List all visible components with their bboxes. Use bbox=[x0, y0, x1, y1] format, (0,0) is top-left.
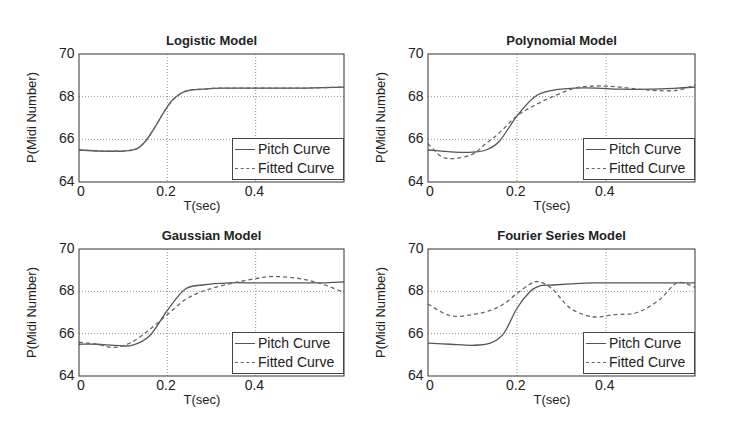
legend: Pitch CurveFitted Curve bbox=[583, 332, 695, 374]
solid-line-icon bbox=[586, 343, 606, 344]
legend-label: Pitch Curve bbox=[609, 334, 681, 353]
legend-label: Fitted Curve bbox=[609, 353, 685, 372]
fitted-curve-line bbox=[428, 281, 695, 316]
legend-item: Fitted Curve bbox=[586, 353, 691, 372]
legend-item: Pitch Curve bbox=[586, 334, 691, 353]
dashed-line-icon bbox=[586, 362, 606, 363]
